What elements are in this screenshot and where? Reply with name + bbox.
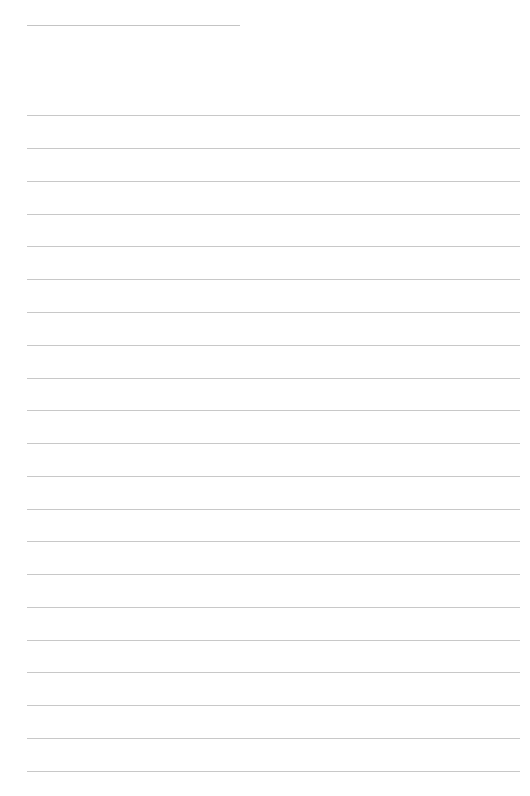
ruled-line xyxy=(27,771,520,772)
lined-paper-page xyxy=(0,0,530,796)
ruled-line xyxy=(27,672,520,673)
ruled-line xyxy=(27,115,520,116)
ruled-line xyxy=(27,279,520,280)
ruled-line xyxy=(27,378,520,379)
ruled-line xyxy=(27,574,520,575)
title-line xyxy=(27,25,240,26)
ruled-line xyxy=(27,705,520,706)
ruled-line xyxy=(27,443,520,444)
ruled-line xyxy=(27,738,520,739)
ruled-line xyxy=(27,541,520,542)
ruled-line xyxy=(27,148,520,149)
ruled-line xyxy=(27,509,520,510)
ruled-line xyxy=(27,607,520,608)
ruled-line xyxy=(27,345,520,346)
ruled-line xyxy=(27,246,520,247)
ruled-line xyxy=(27,312,520,313)
ruled-line xyxy=(27,214,520,215)
ruled-line xyxy=(27,640,520,641)
ruled-line xyxy=(27,476,520,477)
ruled-line xyxy=(27,181,520,182)
ruled-line xyxy=(27,410,520,411)
